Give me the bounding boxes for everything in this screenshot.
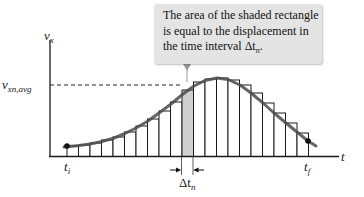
rectangle-bar: [240, 85, 252, 157]
callout-line-3: the time interval Δtn.: [163, 39, 316, 59]
rectangle-bar: [148, 119, 160, 157]
rectangle-bar: [136, 126, 148, 157]
rectangle-bar: [228, 80, 240, 157]
delta-t-dimension: [170, 157, 204, 175]
rectangle-bar: [205, 79, 217, 157]
explanation-callout: The area of the shaded rectangle is equa…: [154, 4, 322, 64]
y-axis-label: vx: [44, 29, 54, 45]
arrowhead-right-icon: [176, 168, 181, 173]
callout-pointer-icon: [183, 64, 191, 71]
t-final-label: tf: [304, 160, 310, 176]
rectangle-bar: [159, 111, 171, 157]
rectangle-bar: [217, 78, 229, 157]
shaded-rectangle: [182, 90, 194, 157]
x-axis-label: t: [341, 150, 345, 163]
callout-line-1: The area of the shaded rectangle: [163, 8, 316, 24]
initial-point-dot: [64, 143, 70, 149]
rectangle-bar: [194, 82, 206, 157]
arrowhead-left-icon: [194, 168, 199, 173]
average-velocity-label: vxn,avg: [2, 78, 32, 94]
rectangle-bar: [125, 132, 137, 157]
t-initial-label: ti: [64, 160, 70, 176]
delta-t-label: Δtn: [179, 176, 195, 192]
final-point-dot: [305, 138, 311, 144]
rectangle-bar: [171, 102, 183, 157]
rectangle-bar: [113, 137, 125, 157]
callout-line-2: is equal to the displacement in: [163, 24, 316, 40]
